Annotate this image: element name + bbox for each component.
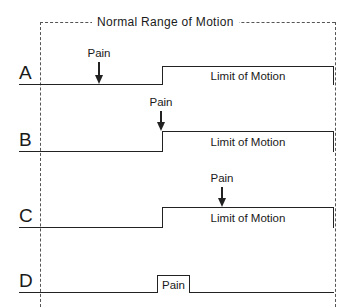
limit-of-motion-box: Limit of Motion — [162, 131, 334, 152]
pain-label: Pain — [162, 279, 185, 291]
pain-label: Pain — [87, 47, 110, 60]
row-label: A — [19, 63, 32, 83]
pain-box: Pain — [157, 275, 190, 293]
row-label: D — [19, 271, 33, 291]
pain-label: Pain — [210, 172, 233, 185]
limit-of-motion-label: Limit of Motion — [211, 212, 286, 224]
row-label: C — [19, 206, 33, 226]
pain-label: Pain — [149, 96, 172, 109]
normal-range-left-boundary — [40, 22, 41, 307]
limit-of-motion-box: Limit of Motion — [162, 207, 334, 228]
limit-of-motion-label: Limit of Motion — [211, 70, 286, 82]
normal-range-title: Normal Range of Motion — [92, 15, 239, 29]
row-label: B — [19, 130, 32, 150]
limit-of-motion-label: Limit of Motion — [211, 136, 286, 148]
limit-of-motion-box: Limit of Motion — [162, 66, 334, 85]
normal-range-right-boundary — [335, 22, 336, 307]
